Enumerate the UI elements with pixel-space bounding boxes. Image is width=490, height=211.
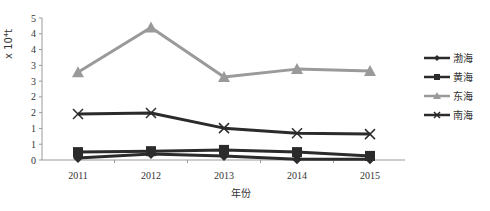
series-line — [78, 27, 370, 77]
legend-label: 渤海 — [453, 52, 473, 64]
y-tick-label: 0 — [31, 155, 36, 166]
y-tick-label: 2 — [31, 107, 36, 118]
x-tick-label: 2014 — [287, 170, 307, 181]
legend: 渤海黄海东海南海 — [424, 52, 473, 121]
square-marker — [219, 145, 229, 155]
triangle-marker — [145, 21, 157, 32]
square-marker — [146, 146, 156, 156]
square-marker — [434, 74, 440, 80]
x-tick-label: 2015 — [360, 170, 380, 181]
y-tick-label: 4 — [31, 44, 36, 55]
legend-item: 黄海 — [424, 71, 473, 83]
legend-label: 东海 — [453, 90, 473, 102]
legend-label: 黄海 — [453, 71, 473, 83]
square-marker — [73, 147, 83, 157]
series-line — [78, 113, 370, 134]
square-marker — [365, 151, 375, 161]
line-chart: 011223344520112012201320142015 渤海黄海东海南海 … — [0, 0, 490, 211]
legend-item: 渤海 — [424, 52, 473, 64]
triangle-marker — [72, 66, 84, 77]
series-group — [72, 21, 376, 164]
x-tick-label: 2012 — [141, 170, 161, 181]
y-tick-label: 3 — [31, 76, 36, 87]
legend-item: 东海 — [424, 90, 473, 102]
x-tick-label: 2013 — [214, 170, 234, 181]
series-东海 — [72, 21, 376, 82]
x-tick-label: 2011 — [68, 170, 88, 181]
y-axis-title: x 10⁴t — [3, 29, 14, 59]
series-南海 — [73, 108, 375, 139]
y-tick-label: 2 — [31, 91, 36, 102]
legend-item: 南海 — [424, 109, 473, 121]
y-tick-label: 4 — [31, 28, 36, 39]
x-axis-title: 年份 — [231, 187, 251, 199]
y-tick-label: 3 — [31, 60, 36, 71]
y-tick-label: 1 — [31, 139, 36, 150]
y-tick-label: 5 — [31, 13, 36, 24]
diamond-marker — [434, 55, 440, 61]
legend-label: 南海 — [453, 109, 473, 121]
y-tick-label: 1 — [31, 123, 36, 134]
square-marker — [292, 147, 302, 157]
